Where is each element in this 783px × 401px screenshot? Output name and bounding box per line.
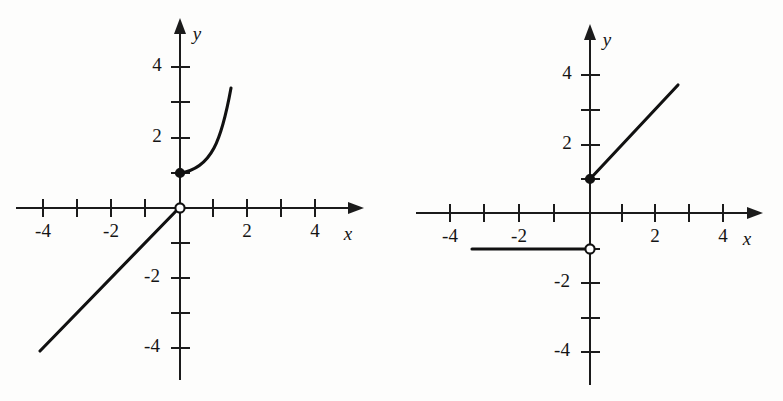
label-y-pos4: 4 — [562, 62, 572, 83]
right-linear-branch — [590, 85, 678, 179]
right-x-axis-label: x — [742, 228, 752, 249]
label-y-pos2: 2 — [562, 132, 572, 153]
label-y-neg2: -2 — [144, 265, 160, 286]
left-y-axis-arrow-icon — [174, 18, 186, 34]
left-exponential-branch — [180, 88, 231, 173]
label-x-neg4: -4 — [442, 225, 458, 246]
label-x-pos2: 2 — [650, 225, 660, 246]
label-y-pos4: 4 — [152, 54, 162, 75]
left-x-axis-label: x — [343, 223, 353, 244]
label-x-neg2: -2 — [511, 225, 527, 246]
label-x-pos2: 2 — [242, 220, 252, 241]
right-closed-endpoint-0-1 — [586, 175, 595, 184]
left-coordinate-plane: -4 -2 2 4 4 2 -2 -4 x y — [0, 0, 392, 401]
right-coordinate-plane: -4 -2 2 4 4 2 -2 -4 x y — [391, 0, 783, 401]
label-y-neg4: -4 — [554, 339, 570, 360]
left-closed-endpoint-0-1 — [176, 169, 185, 178]
left-graph-svg: -4 -2 2 4 4 2 -2 -4 x y — [0, 0, 392, 401]
right-axes — [416, 24, 763, 385]
label-y-pos2: 2 — [152, 125, 162, 146]
figure-two-graphs: -4 -2 2 4 4 2 -2 -4 x y — [0, 0, 783, 401]
left-x-axis-arrow-icon — [348, 202, 364, 214]
label-x-neg4: -4 — [35, 220, 51, 241]
label-x-pos4: 4 — [310, 220, 320, 241]
right-x-axis-arrow-icon — [747, 207, 763, 219]
right-y-axis-arrow-icon — [584, 24, 596, 40]
label-x-neg2: -2 — [103, 220, 119, 241]
right-graph-svg: -4 -2 2 4 4 2 -2 -4 x y — [391, 0, 783, 401]
right-plot — [472, 85, 678, 254]
label-y-neg4: -4 — [144, 335, 160, 356]
right-open-endpoint-0-neg1 — [585, 244, 594, 253]
left-y-axis-label: y — [191, 23, 202, 44]
label-y-neg2: -2 — [554, 270, 570, 291]
label-x-pos4: 4 — [718, 225, 728, 246]
right-tick-labels: -4 -2 2 4 4 2 -2 -4 x y — [442, 29, 752, 360]
left-axes — [16, 18, 364, 380]
left-plot — [40, 88, 231, 351]
right-y-axis-label: y — [601, 29, 612, 50]
left-open-endpoint-origin — [175, 203, 184, 212]
